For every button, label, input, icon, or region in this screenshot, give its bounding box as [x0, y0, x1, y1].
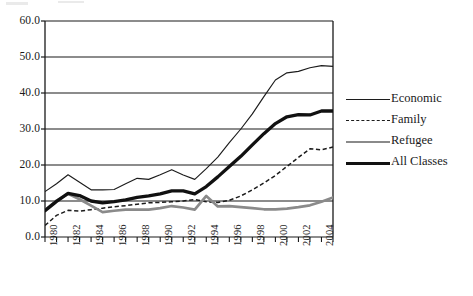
legend-item-label: All Classes [390, 155, 448, 168]
legend-item-family[interactable]: Family [346, 109, 473, 130]
gray-line-icon [346, 134, 390, 148]
bold-line-icon [346, 155, 390, 169]
legend-item-refugee[interactable]: Refugee [346, 130, 473, 151]
x-axis-tick-label: 1988 [141, 224, 152, 246]
x-axis-tick-label: 1980 [49, 224, 60, 246]
x-axis-tick-label: 1984 [95, 224, 106, 246]
legend-item-economic[interactable]: Economic [346, 88, 473, 109]
x-axis-tick-label: 1986 [118, 224, 129, 246]
x-axis-tick-label: 1990 [164, 224, 175, 246]
legend-item-all-classes[interactable]: All Classes [346, 151, 473, 172]
x-axis-tick-label: 1996 [233, 224, 244, 246]
dashed-line-icon [346, 113, 390, 127]
x-axis-tick-label: 2000 [279, 224, 290, 246]
chart-legend: Economic Family Refugee All Classes [346, 88, 473, 172]
x-axis-tick-label: 2002 [302, 224, 313, 246]
legend-item-label: Economic [390, 92, 442, 105]
line-chart: 60.050.040.030.020.010.00.0 198019821984… [0, 0, 473, 296]
x-axis-tick-label: 2004 [325, 224, 336, 246]
x-axis-tick-label: 1982 [72, 224, 83, 246]
x-axis-tick-label: 1994 [210, 224, 221, 246]
legend-item-label: Refugee [390, 134, 433, 147]
x-axis-tick-label: 1998 [256, 224, 267, 246]
legend-item-label: Family [390, 113, 426, 126]
thin-solid-line-icon [346, 92, 390, 106]
x-axis-tick-label: 1992 [187, 224, 198, 246]
